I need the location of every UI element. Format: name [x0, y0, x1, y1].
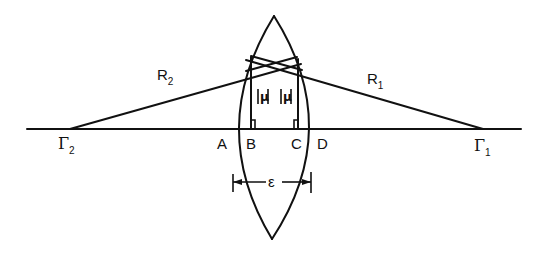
label-point-b: B: [246, 136, 256, 151]
chord-right-to-left: [246, 57, 297, 71]
epsilon-left-arrow: [233, 179, 242, 185]
lens-right-surface: [272, 16, 309, 239]
diagram-lines: [0, 0, 541, 253]
label-r1: R1: [367, 71, 383, 86]
label-r2: R2: [157, 67, 173, 82]
lens-diagram: R2 R1 Γ2 Γ1 A B C D μ μ ε: [0, 0, 541, 253]
label-point-a: A: [217, 136, 227, 151]
lens-left-surface: [239, 16, 274, 239]
epsilon-right-arrow: [302, 179, 311, 185]
label-gamma1: Γ1: [474, 138, 491, 154]
label-point-d: D: [317, 136, 328, 151]
label-mu-left: μ: [260, 91, 269, 103]
label-epsilon: ε: [268, 174, 275, 189]
label-gamma2: Γ2: [58, 136, 75, 152]
label-mu-right: μ: [283, 91, 292, 103]
label-point-c: C: [291, 136, 302, 151]
